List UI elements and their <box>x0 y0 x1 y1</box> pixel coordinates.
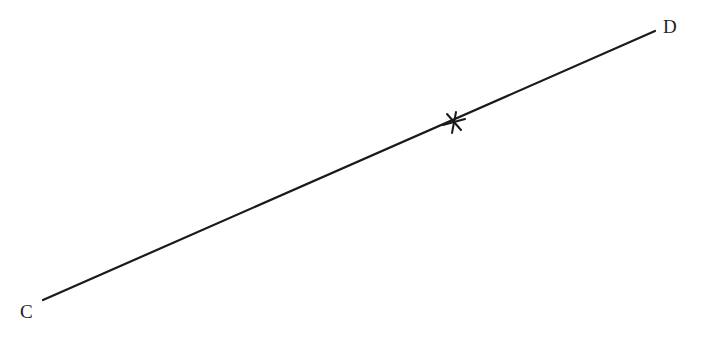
point-label-d: D <box>663 16 677 37</box>
line-segment-cd <box>43 31 655 300</box>
diagram-canvas: C D <box>0 0 704 343</box>
point-label-c: C <box>20 301 33 322</box>
